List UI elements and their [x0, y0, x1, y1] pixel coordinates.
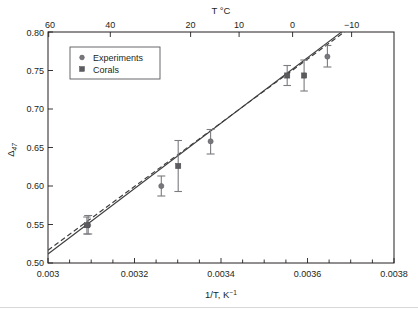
chart-figure: T °C 60 40 20 10 0 −10 — [0, 0, 418, 309]
dashed-regression-line — [48, 0, 394, 250]
marker-square — [285, 73, 290, 78]
data-points-corals — [83, 60, 308, 234]
regression-lines — [48, 0, 394, 254]
y-ticklabel-0.55: 0.55 — [26, 220, 44, 230]
y-ticklabel-0.60: 0.60 — [26, 181, 44, 191]
solid-regression-line — [48, 0, 394, 254]
top-ticklabel-20: 20 — [186, 20, 196, 30]
data-point-experiments-4 — [323, 46, 331, 68]
x-axis-title-superscript: −1 — [229, 289, 237, 296]
x-axis-title-main: 1/T, K — [205, 289, 230, 300]
bottom-axis-ticklabels: 0.003 0.0032 0.0034 0.0036 0.0038 — [37, 269, 408, 279]
y-ticklabel-0.80: 0.80 — [26, 28, 44, 38]
top-axis-ticks — [49, 32, 352, 37]
marker-square — [84, 223, 89, 228]
data-point-corals-3 — [283, 66, 291, 86]
data-point-corals-4 — [300, 60, 308, 91]
marker-circle — [325, 54, 330, 59]
legend-label-experiments: Experiments — [93, 53, 144, 63]
marker-square — [176, 163, 181, 168]
y-ticklabel-0.70: 0.70 — [26, 104, 44, 114]
x-ticklabel-0.0032: 0.0032 — [121, 269, 149, 279]
top-ticklabel-0: 0 — [290, 20, 295, 30]
marker-square — [302, 73, 307, 78]
delta47-vs-inverse-temperature-scatter-chart: T °C 60 40 20 10 0 −10 — [0, 0, 418, 309]
y-axis-title-group: Δ47 — [5, 143, 18, 157]
bottom-axis-major-ticks — [48, 258, 394, 263]
top-ticklabel-minus10: −10 — [344, 20, 359, 30]
x-ticklabel-0.0034: 0.0034 — [207, 269, 235, 279]
marker-circle — [208, 139, 213, 144]
bottom-axis-group: 0.003 0.0032 0.0034 0.0036 0.0038 1/T, K… — [37, 258, 408, 300]
x-ticklabel-0.003: 0.003 — [37, 269, 60, 279]
y-ticklabel-0.65: 0.65 — [26, 143, 44, 153]
marker-circle — [159, 183, 164, 188]
legend-label-corals: Corals — [93, 65, 120, 75]
top-ticklabel-60: 60 — [45, 20, 55, 30]
top-axis-ticklabels: 60 40 20 10 0 −10 — [45, 20, 359, 30]
legend: Experiments Corals — [70, 47, 160, 79]
x-axis-title: 1/T, K−1 — [205, 289, 237, 301]
y-axis-ticks — [48, 32, 53, 263]
x-ticklabel-0.0036: 0.0036 — [294, 269, 322, 279]
y-axis-title-subscript: 47 — [11, 143, 18, 151]
x-ticklabel-0.0038: 0.0038 — [380, 269, 408, 279]
y-axis-title: Δ47 — [5, 143, 18, 157]
y-ticklabel-0.50: 0.50 — [26, 258, 44, 268]
top-ticklabel-10: 10 — [234, 20, 244, 30]
top-axis-title: T °C — [212, 5, 231, 16]
data-point-experiments-2 — [157, 176, 165, 196]
legend-marker-circle-icon — [80, 55, 85, 60]
y-ticklabel-0.75: 0.75 — [26, 66, 44, 76]
y-axis-ticklabels: 0.50 0.55 0.60 0.65 0.70 0.75 0.80 — [26, 28, 44, 269]
y-axis-group: 0.50 0.55 0.60 0.65 0.70 0.75 0.80 Δ47 — [5, 28, 53, 269]
legend-marker-square-icon — [80, 67, 85, 72]
top-ticklabel-40: 40 — [105, 20, 115, 30]
data-point-corals-2 — [174, 141, 182, 192]
